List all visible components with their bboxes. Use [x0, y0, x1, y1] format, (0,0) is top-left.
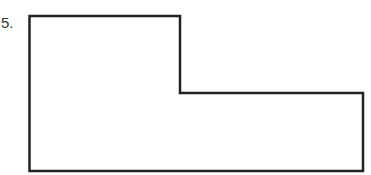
l-shape-outline: [30, 16, 364, 171]
l-shape-figure: [0, 0, 371, 175]
